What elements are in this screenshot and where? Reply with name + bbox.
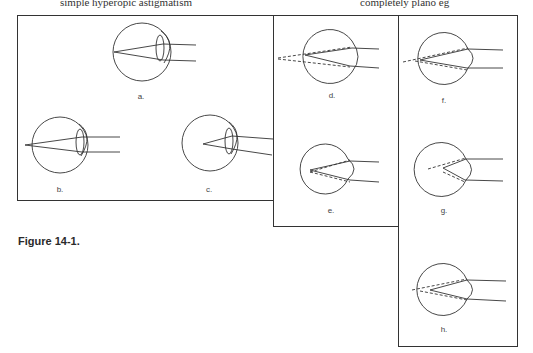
panel-label-a: a. bbox=[138, 92, 145, 101]
eye-diagram-h bbox=[412, 263, 506, 315]
panel-label-d: d. bbox=[329, 91, 336, 100]
eye-diagram-b bbox=[25, 117, 120, 173]
panel-label-g: g. bbox=[441, 206, 448, 215]
eye-diagram-g bbox=[414, 142, 503, 196]
panel-label-f: f. bbox=[442, 96, 446, 105]
eye-diagram-c bbox=[182, 115, 273, 171]
eye-diagram-a bbox=[113, 23, 196, 81]
panel-label-b: b. bbox=[57, 185, 64, 194]
panel-label-e: e. bbox=[328, 206, 335, 215]
eye-diagram-d bbox=[278, 30, 379, 84]
eye-diagram-f bbox=[403, 33, 503, 85]
eye-diagram-e bbox=[300, 144, 379, 194]
panel-label-h: h. bbox=[441, 325, 448, 334]
panel-label-c: c. bbox=[206, 185, 212, 194]
eye-diagrams bbox=[0, 0, 533, 353]
figure-caption: Figure 14-1. bbox=[18, 235, 80, 247]
